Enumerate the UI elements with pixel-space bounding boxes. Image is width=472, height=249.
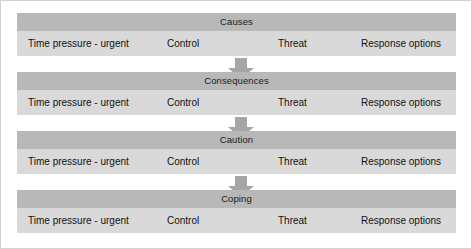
stage-row-causes: Time pressure - urgent Control Threat Re… bbox=[17, 31, 456, 56]
cell-time-pressure: Time pressure - urgent bbox=[28, 208, 129, 233]
diagram-canvas: Causes Time pressure - urgent Control Th… bbox=[0, 0, 472, 249]
cell-time-pressure: Time pressure - urgent bbox=[28, 31, 129, 56]
cell-threat: Threat bbox=[278, 90, 307, 115]
cell-control: Control bbox=[167, 149, 199, 174]
stage-row-consequences: Time pressure - urgent Control Threat Re… bbox=[17, 90, 456, 115]
stage-title-caution: Caution bbox=[17, 131, 456, 149]
stage-consequences: Consequences Time pressure - urgent Cont… bbox=[17, 72, 456, 115]
stage-row-caution: Time pressure - urgent Control Threat Re… bbox=[17, 149, 456, 174]
cell-threat: Threat bbox=[278, 208, 307, 233]
cell-response-options: Response options bbox=[361, 208, 441, 233]
cell-control: Control bbox=[167, 208, 199, 233]
stage-title-coping: Coping bbox=[17, 190, 456, 208]
cell-control: Control bbox=[167, 90, 199, 115]
stage-caution: Caution Time pressure - urgent Control T… bbox=[17, 131, 456, 174]
cell-threat: Threat bbox=[278, 31, 307, 56]
cell-response-options: Response options bbox=[361, 90, 441, 115]
cell-time-pressure: Time pressure - urgent bbox=[28, 90, 129, 115]
stage-row-coping: Time pressure - urgent Control Threat Re… bbox=[17, 208, 456, 233]
cell-control: Control bbox=[167, 31, 199, 56]
cell-response-options: Response options bbox=[361, 149, 441, 174]
cell-response-options: Response options bbox=[361, 31, 441, 56]
cell-time-pressure: Time pressure - urgent bbox=[28, 149, 129, 174]
stage-coping: Coping Time pressure - urgent Control Th… bbox=[17, 190, 456, 233]
stage-title-consequences: Consequences bbox=[17, 72, 456, 90]
cell-threat: Threat bbox=[278, 149, 307, 174]
stage-causes: Causes Time pressure - urgent Control Th… bbox=[17, 13, 456, 56]
stage-title-causes: Causes bbox=[17, 13, 456, 31]
